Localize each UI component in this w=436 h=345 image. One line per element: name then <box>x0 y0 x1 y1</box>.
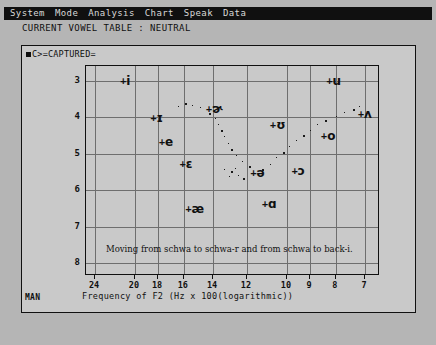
vowel-marker-e[interactable]: +e <box>159 136 173 148</box>
menu-bar: System Mode Analysis Chart Speak Data <box>4 7 432 20</box>
tick-mark <box>286 275 287 279</box>
trail-dot <box>344 112 345 113</box>
square-bullet-icon <box>26 52 31 57</box>
trail-dot <box>215 118 216 119</box>
tick-mark <box>212 275 213 279</box>
trail-dot <box>185 103 187 105</box>
gridline-horizontal <box>86 117 378 118</box>
trail-dot <box>224 136 225 137</box>
x-tick-label: 24 <box>84 280 104 290</box>
trail-dot <box>229 176 230 177</box>
vowel-marker-ɑ[interactable]: +ɑ <box>262 198 277 210</box>
tick-mark <box>335 275 336 279</box>
menu-item-analysis[interactable]: Analysis <box>83 7 140 20</box>
trail-dot <box>231 149 233 151</box>
menu-item-chart[interactable]: Chart <box>140 7 179 20</box>
chart-panel: C>=CAPTURED= Frequency of F1 (Hz x 100(l… <box>21 45 416 313</box>
y-tick-label: 7 <box>66 221 80 231</box>
gridline-vertical <box>158 66 159 274</box>
x-tick-label: 7 <box>354 280 374 290</box>
trail-dot <box>325 120 327 122</box>
x-tick-label: 12 <box>236 280 256 290</box>
trail-dot <box>178 106 179 107</box>
trail-dot <box>228 143 229 144</box>
vowel-marker-i[interactable]: +i <box>120 75 130 87</box>
gridline-horizontal <box>86 227 378 228</box>
vowel-symbol: ə <box>256 166 264 180</box>
menu-item-data[interactable]: Data <box>218 7 251 20</box>
trail-dot <box>336 116 337 117</box>
vowel-marker-ɪ[interactable]: +ɪ <box>150 112 163 124</box>
x-tick-label: 14 <box>202 280 222 290</box>
trail-dot <box>243 178 245 180</box>
menu-item-system[interactable]: System <box>4 7 50 20</box>
panel-title-bar: C>=CAPTURED= <box>26 49 96 59</box>
trail-dot <box>231 171 233 173</box>
tick-mark <box>364 275 365 279</box>
vowel-symbol: o <box>327 129 335 143</box>
gridline-horizontal <box>86 263 378 264</box>
x-tick-label: 20 <box>124 280 144 290</box>
vowel-marker-ɚ[interactable]: +ɚ <box>206 103 223 115</box>
trail-dot <box>359 106 360 107</box>
tick-mark <box>183 275 184 279</box>
gridline-horizontal <box>86 154 378 155</box>
vowel-symbol: ɛ <box>186 157 193 171</box>
trail-dot <box>238 175 239 176</box>
vowel-symbol: ɪ <box>156 111 163 125</box>
tick-mark <box>246 275 247 279</box>
vowel-marker-ɔ[interactable]: +ɔ <box>292 165 305 177</box>
trail-dot <box>221 130 223 132</box>
vowel-marker-ə[interactable]: +ə <box>250 167 264 179</box>
vowel-symbol: ɔ <box>298 164 305 178</box>
vowel-marker-ɛ[interactable]: +ɛ <box>180 158 193 170</box>
gridline-vertical <box>95 66 96 274</box>
y-tick-label: 5 <box>66 148 80 158</box>
x-tick-label: 16 <box>173 280 193 290</box>
panel-title-text: C>=CAPTURED= <box>32 49 96 59</box>
vowel-symbol: ʊ <box>276 118 285 132</box>
vowel-marker-u[interactable]: +u <box>326 75 341 87</box>
menu-item-speak[interactable]: Speak <box>179 7 218 20</box>
trail-dot <box>276 157 277 158</box>
y-tick-label: 4 <box>66 111 80 121</box>
vowel-marker-ʌ[interactable]: +ʌ <box>358 108 372 120</box>
trail-dot <box>270 164 271 165</box>
trail-dot <box>310 130 311 131</box>
trail-dot <box>289 146 290 147</box>
plot-area: +i+u+ɪ+ɚ+ʌ+ʊ+e+o+ɛ+ə+ɔ+æ+ɑ Moving from s… <box>85 65 379 275</box>
x-axis-label: Frequency of F2 (Hz x 100(logarithmic)) <box>82 291 293 301</box>
trail-dot <box>235 168 236 169</box>
menu-item-mode[interactable]: Mode <box>50 7 83 20</box>
gridline-vertical <box>247 66 248 274</box>
current-vowel-table-status: CURRENT VOWEL TABLE : NEUTRAL <box>22 23 191 33</box>
trail-dot <box>317 124 318 125</box>
vowel-symbol: æ <box>191 202 204 216</box>
x-tick-label: 9 <box>299 280 319 290</box>
trail-dot <box>353 109 355 111</box>
trail-dot <box>242 161 243 162</box>
vowel-marker-æ[interactable]: +æ <box>185 203 204 215</box>
gridline-horizontal <box>86 190 378 191</box>
y-tick-label: 3 <box>66 75 80 85</box>
trail-dot <box>218 124 219 125</box>
vowel-symbol: ɑ <box>268 197 277 211</box>
trail-dot <box>200 107 201 108</box>
tick-mark <box>94 275 95 279</box>
tick-mark <box>134 275 135 279</box>
vowel-marker-o[interactable]: +o <box>321 130 335 142</box>
trail-dot <box>192 105 193 106</box>
gridline-vertical <box>310 66 311 274</box>
y-tick-label: 6 <box>66 184 80 194</box>
gridline-vertical <box>184 66 185 274</box>
x-tick-label: 10 <box>276 280 296 290</box>
vowel-marker-ʊ[interactable]: +ʊ <box>270 119 285 131</box>
gridline-vertical <box>336 66 337 274</box>
gridline-vertical <box>365 66 366 274</box>
gridline-vertical <box>135 66 136 274</box>
tick-mark <box>309 275 310 279</box>
speaker-tag: MAN <box>25 293 40 302</box>
vowel-symbol: e <box>165 135 173 149</box>
gridline-vertical <box>213 66 214 274</box>
chart-annotation: Moving from schwa to schwa-r and from sc… <box>106 244 353 254</box>
